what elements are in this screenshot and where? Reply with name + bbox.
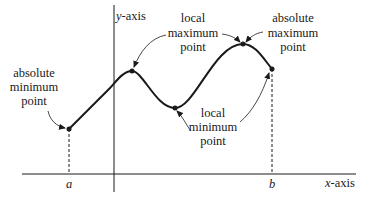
y-axis-label: y-axis [114,9,146,23]
svg-text:point: point [180,40,206,54]
svg-text:maximum: maximum [168,26,219,40]
a-label: a [66,177,72,191]
svg-text:absolute: absolute [272,11,314,25]
b-label: b [269,177,275,191]
local-minimum-point [173,106,178,111]
absolute-minimum-label: absolute minimum point [10,66,59,108]
svg-text:point: point [21,94,47,108]
svg-text:local: local [201,106,226,120]
arrow-local-minimum-right [240,73,269,122]
endpoint-b-point [270,67,275,72]
arrow-local-maximum-left [134,35,166,67]
x-axis-label: x-axis [324,176,355,190]
function-curve [69,44,272,129]
svg-text:local: local [181,11,206,25]
arrow-absolute-minimum [48,111,65,128]
local-maximum-point [130,69,135,74]
svg-text:minimum: minimum [10,80,59,94]
extrema-diagram: y-axis x-axis a b absolute minimum point… [0,0,372,198]
arrow-local-maximum-right [222,34,240,42]
svg-text:minimum: minimum [189,120,238,134]
svg-text:absolute: absolute [13,66,55,80]
absolute-maximum-point [241,42,246,47]
svg-text:point: point [200,134,226,148]
absolute-maximum-label: absolute maximum point [268,11,319,54]
svg-text:maximum: maximum [268,26,319,40]
svg-text:point: point [280,40,306,54]
local-maximum-label: local maximum point [168,11,219,54]
local-minimum-label: local minimum point [189,106,238,148]
arrow-absolute-maximum [246,32,263,42]
absolute-minimum-point [67,127,72,132]
